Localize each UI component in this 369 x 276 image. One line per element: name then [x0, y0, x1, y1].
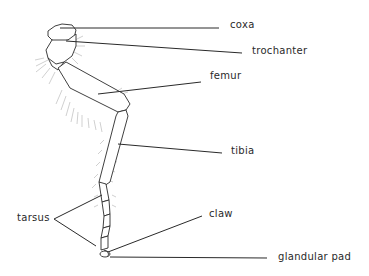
label-tibia: tibia — [231, 145, 254, 156]
tibia-shape — [99, 110, 128, 186]
leader-claw — [108, 216, 202, 252]
femur-shape — [58, 62, 130, 112]
leader-lines — [54, 28, 267, 258]
leader-tarsus-upper — [54, 195, 102, 219]
leader-trochanter — [66, 41, 242, 53]
label-claw: claw — [209, 208, 233, 219]
tarsus-segment-2 — [102, 200, 110, 216]
insect-leg-diagram: coxa trochanter femur tibia tarsus claw … — [0, 0, 369, 276]
hairs — [35, 36, 128, 207]
leg-drawing — [0, 0, 369, 276]
label-tarsus: tarsus — [17, 212, 50, 223]
label-femur: femur — [210, 70, 241, 81]
tarsus-segment-5 — [101, 236, 108, 250]
label-coxa: coxa — [230, 19, 255, 30]
label-glandular-pad: glandular pad — [278, 251, 351, 262]
tarsus-segment-1 — [99, 182, 109, 202]
leader-tarsus-lower — [54, 219, 96, 246]
leader-tibia — [118, 144, 222, 153]
tarsus-segment-4 — [101, 226, 110, 238]
leader-glandular-pad — [110, 257, 267, 258]
label-trochanter: trochanter — [252, 45, 307, 56]
